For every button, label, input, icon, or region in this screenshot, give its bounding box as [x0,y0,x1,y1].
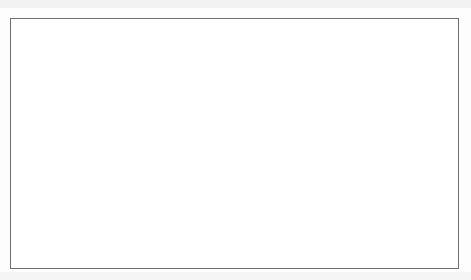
chart-figure-frame [10,18,459,269]
line-chart [11,19,458,268]
page-edge-bottom [0,272,471,280]
figure-page [0,0,471,280]
page-edge-top [0,0,471,8]
